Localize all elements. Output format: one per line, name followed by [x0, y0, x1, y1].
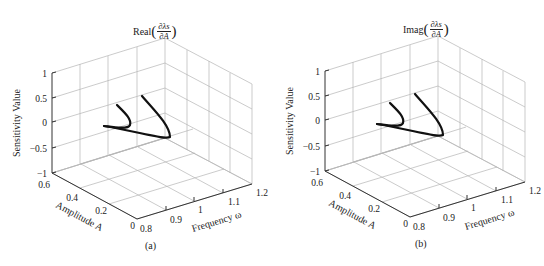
plot-3d: 1 0.5 0 −0.5 −1 Sensitivity Value 0.6 0.… — [273, 0, 544, 264]
y-axis-label: Amplitude A — [54, 199, 106, 233]
x-tick-label: 0.9 — [170, 215, 182, 225]
x-tick-label: 1 — [471, 203, 476, 213]
y-tick-label: 0.2 — [95, 206, 107, 216]
z-tick-label: 0 — [315, 116, 320, 126]
z-tick-label: 0.5 — [35, 94, 47, 104]
x-tick-label: 1.2 — [256, 188, 268, 198]
y-tick-label: 0.4 — [339, 191, 351, 201]
title-prefix: Real — [133, 26, 151, 37]
z-tick-label: 0 — [42, 118, 47, 128]
grid-lines — [52, 38, 252, 184]
y-tick-label: 0 — [403, 219, 408, 229]
z-tick-label: −1 — [310, 167, 320, 177]
x-tick-label: 0.8 — [140, 224, 152, 234]
panel-label: (a) — [145, 240, 156, 251]
title-fraction: ∂λs ∂A — [157, 22, 170, 41]
x-tick-label: 0.9 — [443, 213, 455, 223]
x-tick-label: 1.2 — [529, 186, 541, 196]
grid-lines — [325, 36, 525, 182]
y-tick-label: 0.2 — [368, 204, 380, 214]
panel-label: (b) — [415, 238, 427, 249]
x-tick-label: 1.1 — [501, 195, 513, 205]
x-tick-label: 0.8 — [413, 222, 425, 232]
x-tick-marks — [166, 189, 223, 210]
z-tick-label: −0.5 — [303, 142, 320, 152]
z-tick-marks — [325, 70, 329, 171]
plot-title: Real ( ∂λs ∂A ) — [133, 22, 177, 41]
chart-panel-b: 1 0.5 0 −0.5 −1 Sensitivity Value 0.6 0.… — [273, 0, 544, 264]
chart-panel-a: 1 0.5 0 −0.5 −1 Sensitivity Value 0.6 0.… — [0, 0, 272, 266]
y-axis-label: Amplitude A — [327, 197, 379, 231]
floor-grid — [52, 138, 252, 219]
y-tick-label: 0.4 — [66, 193, 78, 203]
plot-title: Imag ( ∂λs ∂A ) — [403, 20, 449, 39]
z-tick-marks — [52, 72, 56, 173]
y-tick-label: 0 — [130, 221, 135, 231]
z-tick-label: 1 — [315, 67, 320, 77]
y-tick-label: 0.6 — [38, 180, 50, 190]
z-tick-label: 1 — [42, 69, 47, 79]
y-tick-label: 0.6 — [311, 178, 323, 188]
floor-grid — [325, 136, 525, 217]
title-fraction: ∂λs ∂A — [430, 20, 443, 39]
title-prefix: Imag — [403, 24, 424, 35]
z-axis-label: Sensitivity Value — [284, 87, 295, 155]
z-tick-label: 0.5 — [308, 92, 320, 102]
x-tick-label: 1.1 — [228, 197, 240, 207]
x-tick-label: 1 — [198, 205, 203, 215]
z-tick-label: −1 — [37, 169, 47, 179]
z-axis-label: Sensitivity Value — [11, 89, 22, 157]
x-tick-marks — [439, 187, 496, 208]
z-tick-label: −0.5 — [30, 144, 47, 154]
